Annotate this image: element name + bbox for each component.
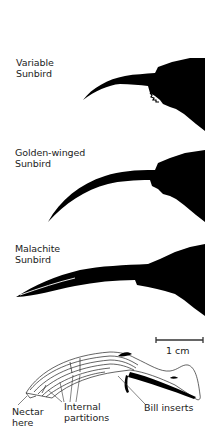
malachite-sunbird-bill-silhouette xyxy=(16,244,205,316)
callout-line: partitions xyxy=(64,412,109,423)
callout-line: here xyxy=(12,417,44,428)
bill-inserts-shape xyxy=(118,352,196,399)
nectar-pointer xyxy=(18,396,27,405)
variable-sunbird-bill-silhouette xyxy=(83,58,205,131)
partition-pointer-2 xyxy=(60,382,64,402)
callout-line: Bill inserts xyxy=(144,402,194,413)
callout-line: Nectar xyxy=(12,406,44,417)
callout-internal-partitions: Internal partitions xyxy=(64,401,109,423)
callout-line: Internal xyxy=(64,401,109,412)
scale-bar-label: 1 cm xyxy=(166,345,190,356)
scale-bar xyxy=(156,337,203,343)
illustration-canvas xyxy=(0,0,221,437)
callout-nectar-here: Nectar here xyxy=(12,406,44,428)
bill-cross-section-diagram xyxy=(26,352,200,400)
partition-pointer-3 xyxy=(70,375,73,402)
callout-bill-inserts: Bill inserts xyxy=(144,402,194,413)
golden-winged-sunbird-bill-silhouette xyxy=(48,150,205,222)
